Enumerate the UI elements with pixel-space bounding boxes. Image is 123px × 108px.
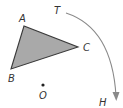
arrowhead-icon (113, 92, 120, 101)
triangle-abc (11, 26, 78, 69)
rotation-diagram: A B C O T H (0, 0, 123, 108)
label-o: O (39, 90, 47, 101)
label-a: A (18, 13, 26, 24)
center-point-o (41, 83, 44, 86)
label-c: C (83, 42, 90, 53)
label-h: H (99, 97, 107, 108)
rotation-arc (66, 13, 116, 96)
label-b: B (8, 73, 15, 84)
label-t: T (54, 5, 61, 16)
